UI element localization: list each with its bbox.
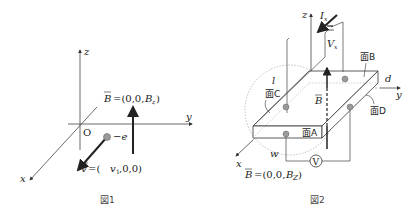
svg-text:B: B (103, 93, 111, 104)
figure-2: z y x O V x I (236, 9, 402, 205)
z-axis-label: z (83, 46, 90, 57)
figure-1: z y x O B =(0,0, B z ) −e v =( v 1 ,0,0) (20, 46, 192, 205)
svg-text:B: B (244, 169, 252, 180)
current-label: I x (319, 10, 328, 22)
thickness-label: d (385, 73, 391, 84)
velocity-label: v =( v 1 ,0,0) (81, 163, 142, 175)
svg-text:): ) (156, 93, 160, 104)
svg-text:x: x (324, 15, 328, 22)
length-label: l (272, 75, 275, 86)
field-equation: B =(0,0, B Z ) (244, 169, 302, 182)
x-axis-label: x (236, 158, 242, 169)
svg-text:): ) (298, 169, 302, 180)
face-d-label: 面D (370, 106, 386, 116)
svg-text:x: x (334, 43, 338, 50)
magnetic-field-label: B =(0,0, B z ) (103, 92, 160, 105)
y-axis-label: y (185, 111, 192, 122)
svg-text:B: B (314, 95, 322, 106)
face-c-label: 面C (265, 89, 280, 99)
y-axis-label: y (395, 89, 402, 100)
contact-face-c (283, 104, 289, 110)
svg-text:=(0,0,: =(0,0, (113, 93, 144, 104)
contact-face-b (342, 76, 348, 82)
voltmeter-label: V (312, 157, 320, 167)
svg-text:=(0,0,: =(0,0, (254, 169, 285, 180)
x-axis (236, 140, 253, 156)
origin-label: O (83, 127, 91, 138)
voltage-label: V x (327, 38, 338, 50)
charge-label: −e (113, 131, 127, 142)
electron-dot (104, 134, 111, 141)
svg-text:=(: =( (88, 163, 100, 174)
z-axis-label: z (301, 9, 308, 20)
face-b-label: 面B (360, 52, 375, 62)
x-axis-label: x (20, 173, 26, 184)
face-a-label: 面A (302, 128, 318, 138)
field-vector-label: B (314, 95, 322, 106)
contact-face-d (347, 104, 353, 110)
width-label: w (270, 148, 279, 159)
figure-1-caption: 図1 (100, 195, 115, 205)
svg-text:v: v (81, 163, 87, 174)
svg-text:,0,0): ,0,0) (119, 163, 142, 174)
figure-2-caption: 図2 (310, 195, 325, 205)
physics-figures: z y x O B =(0,0, B z ) −e v =( v 1 ,0,0) (0, 0, 415, 215)
contact-face-a (283, 131, 289, 137)
x-axis (30, 107, 97, 180)
